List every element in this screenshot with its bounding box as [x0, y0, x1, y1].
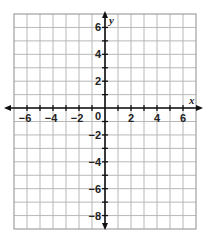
x-tick-label: 4	[154, 112, 161, 124]
origin-label: 0	[95, 110, 101, 122]
y-tick-label: 6	[95, 21, 101, 33]
y-tick-label: −2	[88, 129, 101, 141]
coordinate-plane: −6−4−2246 642−2−4−6−8 0 x y	[0, 0, 209, 239]
y-tick-label: −4	[88, 156, 101, 168]
y-axis-label: y	[107, 14, 114, 26]
x-tick-label: −4	[45, 112, 58, 124]
x-tick-label: −2	[71, 112, 84, 124]
x-tick-label: 6	[180, 112, 186, 124]
x-axis-label: x	[188, 94, 195, 106]
y-tick-label: −6	[88, 183, 101, 195]
x-tick-label: −6	[19, 112, 32, 124]
x-axis-right-arrow-icon	[196, 105, 203, 111]
y-tick-label: 4	[95, 48, 102, 60]
y-tick-label: 2	[95, 75, 101, 87]
x-axis-left-arrow-icon	[4, 105, 11, 111]
x-tick-label: 2	[128, 112, 134, 124]
y-tick-label: −8	[88, 210, 101, 222]
x-tick-labels: −6−4−2246	[19, 112, 186, 124]
